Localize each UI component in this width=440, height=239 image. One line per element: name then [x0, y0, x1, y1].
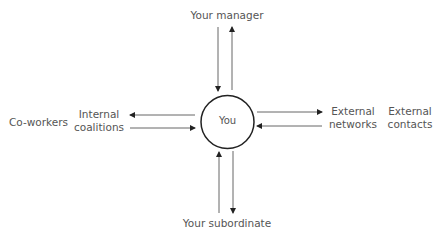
external-contacts-label: External contacts [385, 105, 435, 131]
external-contacts-line2: contacts [385, 118, 435, 131]
internal-coalitions-line2: coalitions [72, 121, 126, 134]
internal-coalitions-line1: Internal [72, 108, 126, 121]
your-manager-label: Your manager [177, 9, 277, 22]
external-networks-line2: networks [328, 118, 378, 131]
external-networks-label: External networks [328, 105, 378, 131]
your-subordinate-label: Your subordinate [172, 217, 282, 230]
external-contacts-line1: External [385, 105, 435, 118]
co-workers-label: Co-workers [9, 116, 68, 129]
external-networks-line1: External [328, 105, 378, 118]
you-node-label: You [201, 115, 254, 126]
internal-coalitions-label: Internal coalitions [72, 108, 126, 134]
